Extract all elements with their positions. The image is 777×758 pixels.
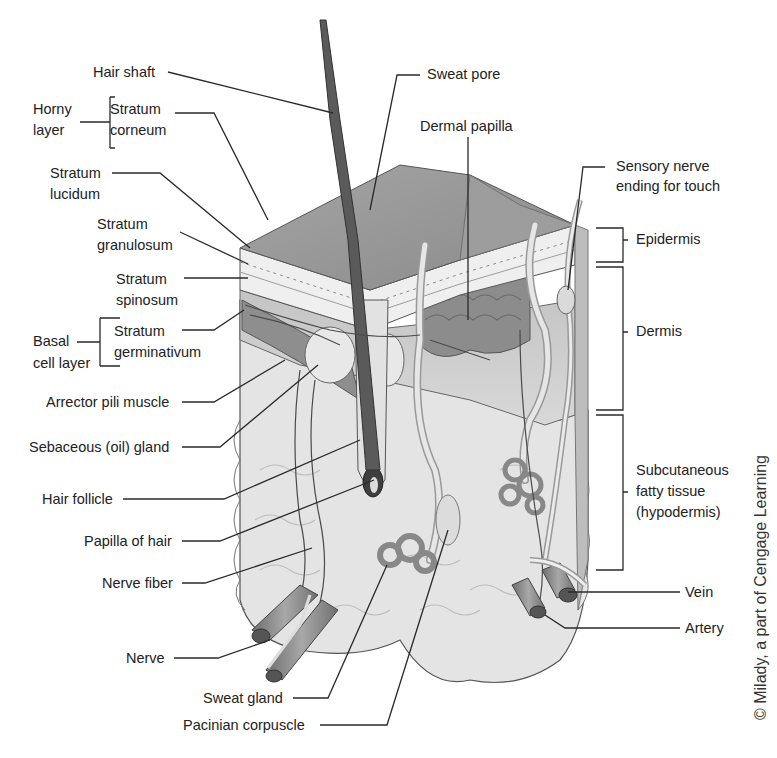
label-stratum-granulosum-1: Stratum <box>97 215 148 234</box>
label-nerve: Nerve <box>126 649 165 668</box>
label-stratum-germinativum-1: Stratum <box>114 322 165 341</box>
label-pacinian-corpuscle: Pacinian corpuscle <box>183 716 305 735</box>
label-hair-shaft: Hair shaft <box>93 63 155 82</box>
label-dermis: Dermis <box>636 322 682 341</box>
label-stratum-granulosum-2: granulosum <box>97 236 173 255</box>
label-vein: Vein <box>685 583 713 602</box>
skin-diagram: Hair shaft Horny layer Stratum corneum S… <box>0 0 777 758</box>
label-subcutaneous-3: (hypodermis) <box>636 503 721 522</box>
label-artery: Artery <box>685 619 724 638</box>
label-sweat-gland: Sweat gland <box>203 689 283 708</box>
label-stratum-spinosum-1: Stratum <box>116 270 167 289</box>
pacinian-corpuscle <box>436 495 460 545</box>
label-horny-layer-1: Horny <box>33 100 72 119</box>
label-sebaceous-gland: Sebaceous (oil) gland <box>29 438 169 457</box>
label-dermal-papilla: Dermal papilla <box>420 117 513 136</box>
label-stratum-lucidum-1: Stratum <box>50 164 101 183</box>
label-arrector-pili-muscle: Arrector pili muscle <box>46 393 169 412</box>
label-stratum-spinosum-2: spinosum <box>116 291 178 310</box>
label-stratum-corneum-1: Stratum <box>110 100 161 119</box>
sebaceous-gland <box>305 327 355 383</box>
label-stratum-germinativum-2: germinativum <box>114 343 201 362</box>
label-sensory-nerve-1: Sensory nerve <box>616 157 710 176</box>
label-hair-follicle: Hair follicle <box>42 490 113 509</box>
label-nerve-fiber: Nerve fiber <box>102 574 173 593</box>
papilla-of-hair <box>370 477 378 493</box>
block-side-face <box>575 225 588 610</box>
label-papilla-of-hair: Papilla of hair <box>84 532 172 551</box>
label-subcutaneous-2: fatty tissue <box>636 482 705 501</box>
label-epidermis: Epidermis <box>636 230 700 249</box>
label-stratum-corneum-2: corneum <box>110 121 166 140</box>
label-basal-cell-layer-1: Basal <box>33 332 69 351</box>
label-sensory-nerve-2: ending for touch <box>616 177 720 196</box>
label-stratum-lucidum-2: lucidum <box>50 185 100 204</box>
label-basal-cell-layer-2: cell layer <box>33 354 90 373</box>
copyright-notice: © Milady, a part of Cengage Learning <box>752 455 770 720</box>
label-subcutaneous-1: Subcutaneous <box>636 461 729 480</box>
label-horny-layer-2: layer <box>33 121 64 140</box>
sensory-nerve-ending <box>557 286 575 314</box>
label-sweat-pore: Sweat pore <box>427 65 500 84</box>
